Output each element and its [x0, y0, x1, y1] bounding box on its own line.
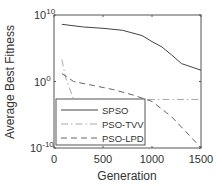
y-tick-label: 1010 [34, 7, 56, 21]
x-tick-label: 0 [51, 153, 57, 165]
y-tick-label: 10-10 [30, 140, 54, 154]
legend-label: PSO-TVV [102, 119, 144, 130]
y-axis-label: Average Best Fitness [3, 25, 17, 139]
legend: SPSOPSO-TVVPSO-LPD [56, 99, 145, 145]
legend-label: PSO-LPD [102, 133, 144, 144]
x-axis-label: Generation [97, 169, 156, 183]
legend-label: SPSO [102, 105, 128, 116]
x-tick-label: 1500 [189, 153, 213, 165]
y-tick-label: 100 [34, 74, 51, 88]
chart: 050010001500101010010-10 SPSOPSO-TVVPSO-… [0, 0, 222, 186]
x-tick-label: 1000 [140, 153, 164, 165]
x-tick-label: 500 [94, 153, 112, 165]
